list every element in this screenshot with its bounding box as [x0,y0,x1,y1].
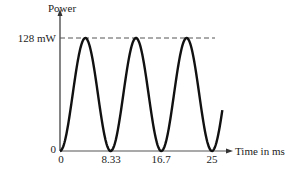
x-tick-1: 8.33 [101,153,121,165]
x-axis-arrow-icon [226,149,233,154]
y-tick-zero: 0 [51,143,57,155]
y-axis-label: Power [48,2,76,14]
x-tick-3: 25 [207,153,219,165]
y-tick-max: 128 mW [18,32,57,44]
power-chart: Power 128 mW 0 0 8.33 16.7 25 Time in ms [0,0,293,171]
x-axis-label: Time in ms [235,145,285,157]
x-tick-0: 0 [58,153,64,165]
x-tick-2: 16.7 [151,153,171,165]
power-curve [60,38,222,151]
